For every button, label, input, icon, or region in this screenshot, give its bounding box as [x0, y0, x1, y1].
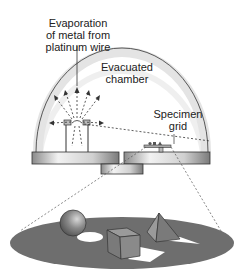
- evaporation-label-line1: Evaporation: [40, 17, 116, 29]
- platinum-wire-source: [64, 120, 90, 152]
- chamber-label-line2: chamber: [92, 73, 162, 85]
- specimen-label: Specimen grid: [150, 108, 206, 132]
- evaporation-label-line2: of metal from: [40, 29, 116, 41]
- evaporation-label-line3: platinum wire: [40, 41, 116, 53]
- shadowing-diagram: [0, 0, 246, 279]
- specimen-label-line1: Specimen: [150, 108, 206, 120]
- chamber-label: Evacuated chamber: [92, 61, 162, 85]
- magnified-specimen: [10, 210, 234, 269]
- specimen-label-line2: grid: [150, 120, 206, 132]
- base-plate: [32, 152, 210, 174]
- evaporation-label: Evaporation of metal from platinum wire: [40, 17, 116, 53]
- chamber-label-line1: Evacuated: [92, 61, 162, 73]
- specimen-grid: [144, 134, 174, 152]
